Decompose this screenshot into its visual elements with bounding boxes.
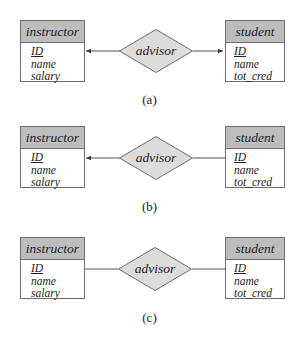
entity-student-a: student ID name tot_cred [225, 20, 285, 82]
entity-title: instructor [21, 127, 84, 149]
attribute-primary-key: ID [31, 151, 84, 164]
entity-instructor-a: instructor ID name salary [20, 20, 85, 82]
entity-student-b: student ID name tot_cred [225, 126, 285, 188]
attribute: name [234, 164, 284, 177]
entity-title: student [226, 127, 284, 149]
entity-instructor-b: instructor ID name salary [20, 126, 85, 188]
caption-b: (b) [0, 199, 299, 215]
attribute: name [31, 275, 84, 288]
entity-student-c: student ID name tot_cred [225, 237, 285, 299]
entity-title: instructor [21, 238, 84, 260]
relationship-advisor-b: advisor [119, 136, 193, 180]
relationship-label: advisor [118, 247, 192, 291]
attribute-primary-key: ID [31, 262, 84, 275]
relationship-advisor-c: advisor [118, 247, 192, 291]
attribute: tot_cred [234, 70, 284, 83]
attribute: tot_cred [234, 287, 284, 300]
attribute-primary-key: ID [234, 151, 284, 164]
entity-instructor-c: instructor ID name salary [20, 237, 85, 299]
entity-title: student [226, 21, 284, 43]
relationship-label: advisor [119, 136, 193, 180]
attribute-primary-key: ID [31, 45, 84, 58]
attribute: salary [31, 70, 84, 83]
attribute: name [31, 164, 84, 177]
er-diagram-figure: instructor ID name salary advisor studen… [0, 0, 299, 344]
attribute: salary [31, 287, 84, 300]
entity-title: instructor [21, 21, 84, 43]
caption-c: (c) [0, 310, 299, 326]
attribute: name [234, 58, 284, 71]
attribute: salary [31, 176, 84, 189]
attribute: name [31, 58, 84, 71]
entity-title: student [226, 238, 284, 260]
attribute-primary-key: ID [234, 262, 284, 275]
relationship-advisor-a: advisor [119, 29, 193, 73]
caption-a: (a) [0, 92, 299, 108]
attribute-primary-key: ID [234, 45, 284, 58]
attribute: name [234, 275, 284, 288]
relationship-label: advisor [119, 29, 193, 73]
attribute: tot_cred [234, 176, 284, 189]
